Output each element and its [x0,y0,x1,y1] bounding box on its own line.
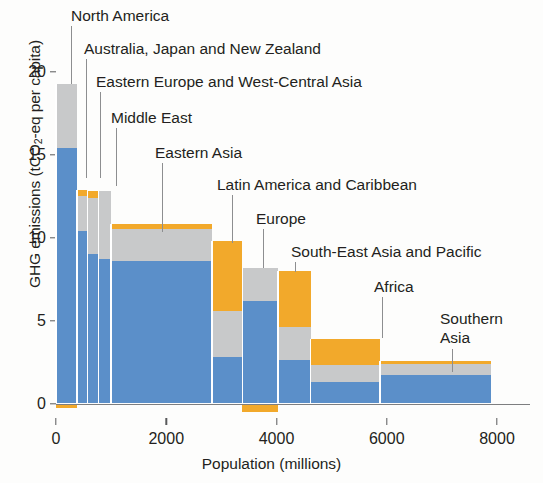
x-axis-title: Population (millions) [0,455,543,473]
region-callout-leader-line [382,297,383,338]
region-callout-label: Middle East [111,108,192,127]
region-callout-leader-line [100,92,101,178]
ghg-emissions-population-chart: GHG emissions (tCO2-eq per capita) Popul… [0,0,543,483]
x-axis-tick-label: 8000 [462,430,532,448]
region-callout-label: Europe [256,209,306,228]
bar-separator [379,361,381,403]
bar-segment-orange [380,361,491,363]
y-axis-tick-mark [50,71,56,72]
y-axis-title-subscript: 2 [32,138,44,144]
region-callout-label: Latin America and Caribbean [217,175,417,194]
region-callout-label: Asia [440,328,470,347]
bar-segment-orange [212,241,242,311]
bar-segment-orange [311,339,380,366]
x-axis-tick-label: 4000 [242,430,312,448]
y-axis-tick-label: 0 [4,395,46,413]
x-axis-line [56,404,530,406]
bar-separator [76,190,78,404]
bar-segment-grey [278,327,311,360]
region-callout-leader-line [232,195,233,243]
x-axis-tick-mark [55,418,56,425]
region-callout-label: Eastern Asia [155,143,242,162]
bar-segment-grey [56,84,77,149]
bar-separator [211,241,213,403]
bar-segment-blue [380,375,491,403]
region-callout-label: South-East Asia and Pacific [291,242,481,261]
y-axis-tick-label: 20 [4,63,46,81]
bar-segment-grey [380,364,491,376]
bar-separator [87,191,89,403]
bar-segment-blue [311,382,380,404]
bar-separator [55,84,57,404]
y-axis-tick-label: 15 [4,146,46,164]
x-axis-tick-mark [386,418,387,425]
bar-separator [98,191,100,403]
bar-segment-grey [111,229,212,260]
region-callout-label: Southern [440,309,503,328]
bar-segment-blue [111,261,212,404]
bar-segment-orange [278,271,311,327]
region-callout-leader-line [116,128,117,186]
region-callout-label: North America [71,6,169,25]
bar-separator [310,339,312,404]
y-axis-title-post: -eq per capita) [26,40,43,138]
region-callout-leader-line [86,59,87,178]
y-axis-tick-label: 10 [4,229,46,247]
bar-segment-grey [98,191,111,259]
bar-segment-blue [278,360,311,403]
bar-segment-grey [212,311,242,357]
x-axis-tick-mark [166,418,167,425]
region-callout-label: Africa [374,277,414,296]
x-axis-tick-label: 0 [21,430,91,448]
region-callout-leader-line [263,229,264,268]
y-axis-tick-label: 5 [4,312,46,330]
region-callout-leader-line [71,26,72,84]
bar-segment-blue [56,148,77,403]
region-callout-leader-line [452,349,453,372]
region-callout-leader-line [162,163,163,232]
bar-segment-blue [98,259,111,403]
x-axis-tick-mark [496,418,497,425]
bar-segment-blue [212,357,242,403]
x-axis-tick-label: 6000 [352,430,422,448]
x-axis-tick-mark [276,418,277,425]
region-callout-label: Australia, Japan and New Zealand [84,39,321,58]
bar-segment-blue [242,301,278,404]
bar-separator [277,271,279,404]
y-axis-title-pre: GHG emissions (tCO [26,144,43,288]
bar-separator [242,268,244,404]
bar-separator [110,224,112,403]
region-callout-label: Eastern Europe and West-Central Asia [96,72,362,91]
bar-segment-grey [242,268,278,301]
bar-segment-grey [311,365,380,382]
x-axis-tick-label: 2000 [131,430,201,448]
region-callout-leader-line [295,262,296,272]
